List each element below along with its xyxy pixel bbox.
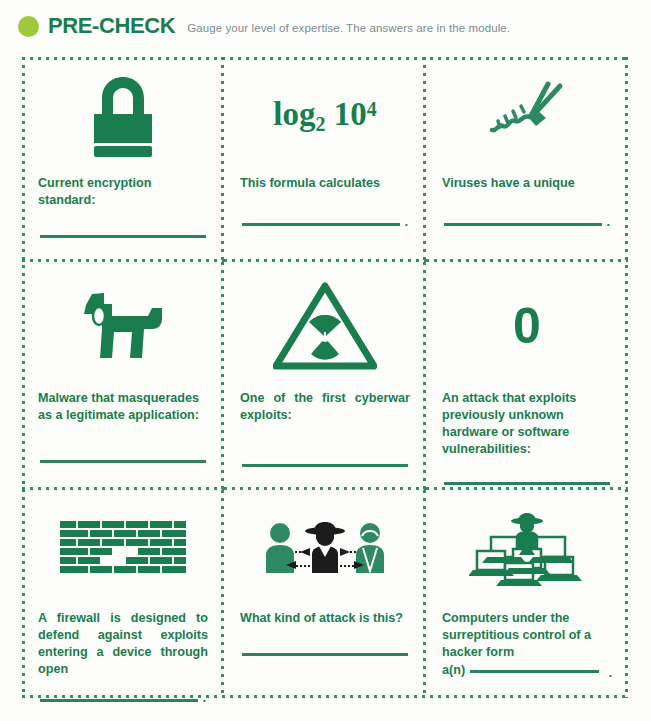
trailing-period: . <box>404 218 408 226</box>
precheck-prompt: Malware that masquerades as a legitimate… <box>38 390 208 424</box>
answer-line-9[interactable]: a(n) . <box>442 663 612 677</box>
precheck-prompt: Computers under the surreptitious contro… <box>442 610 612 661</box>
trojan-horse-icon <box>34 262 212 390</box>
answer-rule <box>40 699 198 702</box>
answer-line-6[interactable] <box>444 482 610 485</box>
precheck-prompt: What kind of attack is this? <box>240 610 410 627</box>
trailing-period: . <box>202 694 206 702</box>
answer-line-1[interactable] <box>40 235 206 238</box>
precheck-cell-6: 0 An attack that exploits previously unk… <box>426 262 628 490</box>
precheck-cell-5: One of the first cyberwar exploits: <box>224 262 426 490</box>
precheck-cell-7: A firewall is designed to defend against… <box>22 490 224 698</box>
formula-exponent: 4 <box>367 98 377 120</box>
answer-rule <box>444 482 610 485</box>
answer-rule <box>242 653 408 656</box>
precheck-prompt: This formula calculates <box>240 175 410 192</box>
answer-rule <box>242 464 408 467</box>
virus-bacteriophage-icon <box>438 57 616 175</box>
formula-base: log <box>273 96 315 132</box>
page-title: PRE-CHECK <box>48 13 175 39</box>
answer-line-7[interactable]: . <box>40 694 206 702</box>
page-header: PRE-CHECK Gauge your level of expertise.… <box>0 0 651 52</box>
brick-wall-firewall-icon <box>34 490 212 610</box>
answer-line-3[interactable]: . <box>444 218 610 226</box>
answer-rule <box>444 223 602 226</box>
trailing-period: . <box>608 669 612 677</box>
answer-rule <box>40 460 206 463</box>
precheck-cell-9: Computers under the surreptitious contro… <box>426 490 628 698</box>
precheck-prompt: One of the first cyberwar exploits: <box>240 390 410 424</box>
answer-line-8[interactable] <box>242 653 408 656</box>
formula-subscript: 2 <box>315 113 325 135</box>
precheck-cell-8: What kind of attack is this? <box>224 490 426 698</box>
log-formula: log2 104 <box>236 57 414 175</box>
padlock-icon <box>34 57 212 175</box>
answer-rule <box>40 235 206 238</box>
zero-glyph: 0 <box>513 301 541 351</box>
precheck-prompt: An attack that exploits previously unkno… <box>442 390 612 458</box>
header-bullet-icon <box>18 16 39 37</box>
botnet-hacker-laptops-icon <box>438 490 616 610</box>
formula-text: log2 104 <box>273 98 376 134</box>
answer-rule <box>242 223 400 226</box>
zero-digit: 0 <box>438 262 616 390</box>
precheck-prompt: Viruses have a unique <box>442 175 612 192</box>
radiation-warning-icon <box>236 262 414 390</box>
precheck-prompt: Current encryption standard: <box>38 175 208 209</box>
answer-line-4[interactable] <box>40 460 206 463</box>
trailing-period: . <box>606 218 610 226</box>
answer-line-2[interactable]: . <box>242 218 408 226</box>
inline-answer-prefix: a(n) <box>442 663 465 677</box>
precheck-cell-4: Malware that masquerades as a legitimate… <box>22 262 224 490</box>
precheck-cell-2: log2 104 This formula calculates . <box>224 57 426 262</box>
formula-operand: 10 <box>334 96 367 132</box>
page-subtitle: Gauge your level of expertise. The answe… <box>187 18 510 34</box>
precheck-prompt: A firewall is designed to defend against… <box>38 610 208 678</box>
precheck-grid: Current encryption standard: log2 104 Th… <box>22 57 628 698</box>
man-in-the-middle-icon <box>236 490 414 610</box>
answer-line-5[interactable] <box>242 464 408 467</box>
answer-rule <box>470 670 599 673</box>
precheck-cell-1: Current encryption standard: <box>22 57 224 262</box>
precheck-cell-3: Viruses have a unique . <box>426 57 628 262</box>
